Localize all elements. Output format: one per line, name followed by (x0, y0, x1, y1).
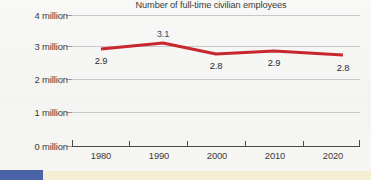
x-axis-label-1990: 1990 (130, 150, 188, 161)
data-line-civilian-employees (101, 43, 343, 55)
x-axis-label-1980: 1980 (72, 150, 130, 161)
y-axis-label-2-million: 2 million (4, 74, 68, 85)
footer-caption (48, 172, 348, 179)
x-axis-label-2000: 2000 (188, 150, 246, 161)
x-axis-label-2010: 2010 (246, 150, 304, 161)
y-axis-label-1-million-wrap: 1 million (0, 107, 68, 119)
chart-screenshot: Number of full-time civilian employees 4… (0, 0, 371, 180)
y-axis-label-4-million-wrap: 4 million (0, 10, 68, 22)
chart-title: Number of full-time civilian employees (96, 0, 326, 10)
data-label-1990: 3.1 (148, 28, 178, 39)
y-axis-label-0-million-wrap: 0 million (0, 141, 68, 153)
y-axis-label-3-million: 3 million (4, 41, 68, 52)
data-label-2020: 2.8 (328, 62, 358, 73)
y-axis-label-4-million: 4 million (4, 10, 68, 21)
y-axis-label-2-million-wrap: 2 million (0, 74, 68, 86)
y-axis-label-1-million: 1 million (4, 107, 68, 118)
x-axis-label-2020: 2020 (304, 150, 362, 161)
data-label-2010: 2.9 (259, 57, 289, 68)
y-axis-label-0-million: 0 million (4, 141, 68, 152)
footer-tab-block (0, 170, 43, 180)
data-label-2000: 2.8 (201, 60, 231, 71)
data-label-1980: 2.9 (86, 55, 116, 66)
y-axis-label-3-million-wrap: 3 million (0, 41, 68, 53)
x-axis (72, 140, 360, 147)
